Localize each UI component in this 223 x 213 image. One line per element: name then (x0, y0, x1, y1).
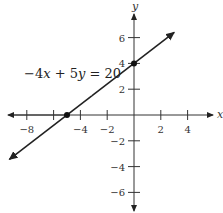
equation-line (9, 32, 174, 159)
x-tick-label: 4 (184, 124, 190, 135)
x-tick-label: −4 (73, 124, 88, 135)
x-tick-label: −2 (100, 124, 115, 135)
line-graph: xy −8−4−224642−2−4−6 −4x + 5y = 20 (0, 0, 223, 213)
y-tick-label: 2 (119, 84, 125, 95)
intercept-point (131, 60, 137, 66)
x-tick-label: 2 (158, 124, 164, 135)
x-tick-label: −8 (19, 124, 34, 135)
axes: xy (8, 0, 223, 211)
intercept-point (64, 112, 70, 118)
y-tick-label: 6 (119, 33, 125, 44)
x-axis-label: x (217, 108, 223, 121)
y-tick-label: −2 (110, 136, 125, 147)
plot-area: xy −8−4−224642−2−4−6 (0, 0, 223, 213)
equation-label: −4x + 5y = 20 (24, 66, 121, 81)
y-tick-label: −4 (110, 162, 125, 173)
y-axis-label: y (131, 0, 139, 13)
y-tick-label: −6 (110, 187, 125, 198)
